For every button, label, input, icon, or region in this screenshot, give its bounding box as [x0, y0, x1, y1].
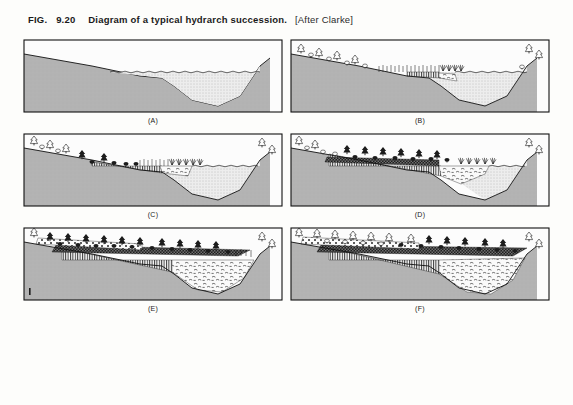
panel-c: (C)	[22, 132, 284, 210]
panel-label-a: (A)	[22, 117, 284, 124]
panel-label-b: (B)	[289, 117, 551, 124]
panel-label-e: (E)	[22, 305, 284, 312]
figure-number: 9.20	[56, 14, 75, 25]
panel-e: (E)	[22, 226, 284, 304]
panel-label-c: (C)	[22, 211, 284, 218]
panel-label-f: (F)	[289, 305, 551, 312]
panel-a: (A)	[22, 38, 284, 116]
figure-word: FIG.	[28, 14, 47, 25]
panel-grid: (A) (B)	[0, 32, 573, 324]
panel-f: (F)	[289, 226, 551, 304]
figure-caption: FIG. 9.20 Diagram of a typical hydrarch …	[28, 14, 353, 25]
legend: VEGETATION RUSHES SEDGES SPHAGNUM	[0, 322, 573, 405]
figure-title: Diagram of a typical hydrarch succession…	[88, 14, 287, 25]
panel-d: (D)	[289, 132, 551, 210]
panel-label-d: (D)	[289, 211, 551, 218]
panel-b: (B)	[289, 38, 551, 116]
figure-source: [After Clarke]	[295, 14, 353, 25]
